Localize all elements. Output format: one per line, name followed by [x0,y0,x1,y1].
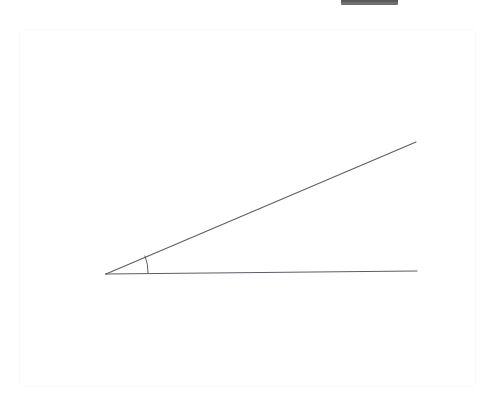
angle-arc [145,256,148,273]
angle-diagram [0,0,494,398]
upper-ray [106,142,416,274]
figure-stage: Acute angle formed by two rays 23 [0,0,494,398]
vertex-point [105,273,107,275]
lower-ray [106,271,417,274]
